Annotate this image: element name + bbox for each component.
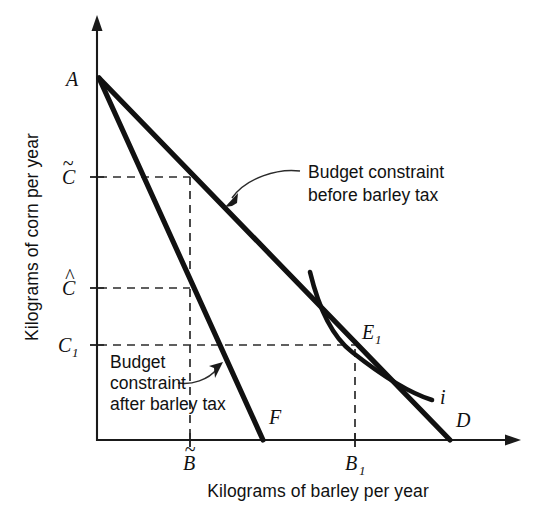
leader-line-before-tax [232,170,300,198]
annotation-after-tax-line-1: Budget [110,352,166,372]
budget-constraint-chart: Kilograms of corn per year Kilograms of … [0,0,536,532]
y-tick-label-c-one-subscript: 1 [72,345,79,360]
x-axis-title: Kilograms of barley per year [207,481,429,501]
x-tick-label-b-one-base: B [345,452,357,474]
label-point-e1-base: E [361,321,374,343]
x-tick-label-b-one: B 1 [345,452,366,478]
y-tick-label-c-hat: C ^ [62,265,76,299]
annotation-after-tax: Budget constraint after barley tax [110,352,226,414]
tilde-accent-icon: ~ [63,152,74,174]
label-point-d: D [455,409,471,431]
tilde-accent-icon-x: ~ [185,438,196,460]
label-point-a: A [64,68,79,90]
annotation-before-tax-line-1: Budget constraint [308,162,444,182]
annotation-after-tax-line-2: constraint [110,373,186,393]
annotation-leader-before-tax [225,170,300,207]
annotation-after-tax-line-3: after barley tax [110,394,226,414]
y-axis-arrowhead [92,15,103,31]
label-point-f: F [268,406,282,428]
label-point-e1: E 1 [361,321,382,347]
x-tick-label-b-one-subscript: 1 [359,463,366,478]
annotation-before-tax-line-2: before barley tax [308,185,439,205]
annotation-before-tax: Budget constraint before barley tax [308,162,444,205]
x-tick-label-b-tilde: B ~ [183,438,196,474]
label-indifference-curve-i: i [440,386,446,408]
figure-container: Kilograms of corn per year Kilograms of … [0,0,536,532]
y-axis-title: Kilograms of corn per year [22,133,42,341]
y-tick-label-c-one: C 1 [58,334,79,360]
x-axis-arrowhead [505,435,521,446]
y-tick-label-c-tilde: C ~ [62,152,76,188]
leader-arrowhead-before-tax [225,193,238,207]
y-tick-label-c-one-base: C [58,334,72,356]
label-point-e1-subscript: 1 [375,332,382,347]
